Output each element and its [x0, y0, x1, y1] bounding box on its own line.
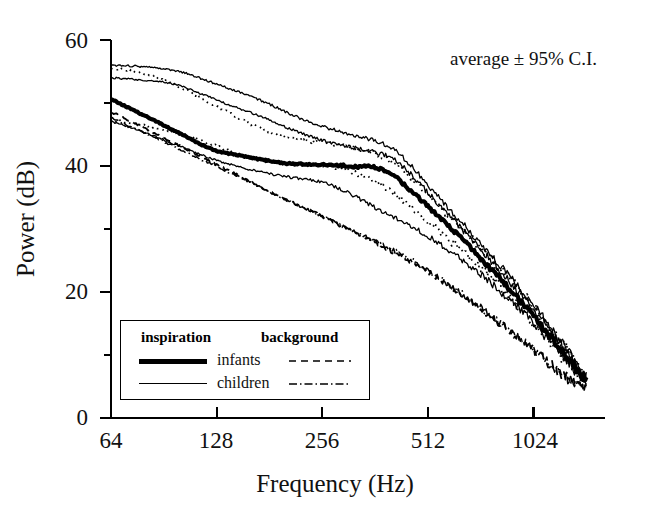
chart-annotation: average ± 95% C.I. [450, 48, 597, 70]
y-tick-label-40: 40 [28, 153, 88, 179]
legend-label-infants: infants [217, 351, 261, 369]
x-tick-label-256: 256 [282, 428, 362, 454]
legend-header-inspiration: inspiration [141, 329, 211, 346]
legend-header-background: background [261, 329, 338, 346]
x-axis-title: Frequency (Hz) [175, 470, 495, 498]
x-tick-label-1024: 1024 [495, 428, 575, 454]
legend-swatch-children-inspiration [139, 383, 207, 384]
legend-label-children: children [217, 374, 269, 392]
x-tick-label-128: 128 [176, 428, 256, 454]
figure-panel: Power (dB) Frequency (Hz) 60 40 20 0 64 … [0, 0, 665, 514]
x-tick-label-64: 64 [71, 428, 151, 454]
legend-swatch-children-background [289, 382, 351, 386]
legend-swatch-infants-background [289, 359, 351, 363]
legend-swatch-infants-inspiration [139, 359, 207, 364]
y-tick-label-60: 60 [28, 28, 88, 54]
y-tick-label-20: 20 [28, 279, 88, 305]
legend: inspiration background infants children [120, 320, 370, 400]
x-tick-label-512: 512 [388, 428, 468, 454]
